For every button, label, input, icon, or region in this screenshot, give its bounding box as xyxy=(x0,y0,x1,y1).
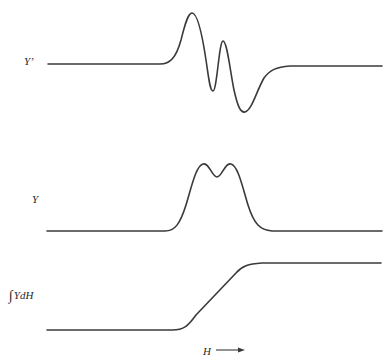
spectra-figure: Y’ Y ∫YdH H xyxy=(0,0,391,361)
integral-curve xyxy=(47,263,381,330)
derivative-curve xyxy=(48,13,382,112)
absorption-label: Y xyxy=(32,193,38,205)
absorption-curve xyxy=(47,164,382,231)
arrowhead-icon xyxy=(238,348,245,353)
derivative-label: Y’ xyxy=(24,55,34,67)
integral-label: ∫YdH xyxy=(9,287,33,303)
x-axis-label: H xyxy=(203,345,211,357)
integral-sign-icon: ∫ xyxy=(9,288,13,303)
curves-canvas xyxy=(0,0,391,361)
integral-label-text: YdH xyxy=(14,289,34,301)
